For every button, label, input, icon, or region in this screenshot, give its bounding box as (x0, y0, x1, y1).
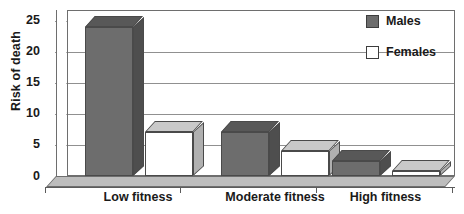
legend: Males Females (366, 14, 436, 76)
legend-label-males: Males (386, 14, 421, 28)
bar-females-moderate-fitness (281, 151, 329, 176)
bar-front-face (392, 171, 440, 176)
y-tick-label-25: 25 (14, 14, 40, 26)
bar-front-face (332, 161, 380, 176)
x-tick-start (45, 187, 46, 193)
y-axis-tick-labels: 25 20 15 10 5 0 (14, 0, 40, 214)
bar-males-moderate-fitness (221, 132, 269, 176)
filled-square-icon (366, 15, 379, 28)
y-tick-label-10: 10 (14, 107, 40, 119)
legend-label-females: Females (386, 45, 436, 59)
x-axis-label-low-fitness: Low fitness (68, 190, 208, 204)
bar-front-face (281, 151, 329, 176)
bar-males-low-fitness (85, 27, 133, 176)
x-axis-line (45, 187, 455, 188)
legend-item-females: Females (366, 45, 436, 59)
y-tick-label-0: 0 (14, 170, 40, 182)
bar-front-face (85, 27, 133, 176)
bar-females-low-fitness (145, 132, 193, 176)
bar-females-high-fitness (392, 171, 440, 176)
chart-floor (46, 176, 455, 187)
legend-item-males: Males (366, 14, 436, 28)
y-tick-label-5: 5 (14, 138, 40, 150)
y-tick-label-20: 20 (14, 45, 40, 57)
x-axis-label-high-fitness: High fitness (318, 190, 453, 204)
bar-front-face (221, 132, 269, 176)
bar-front-face (145, 132, 193, 176)
bar-chart: Risk of death 25 20 15 10 5 0 (0, 0, 464, 214)
y-tick-label-15: 15 (14, 76, 40, 88)
empty-square-icon (366, 46, 379, 59)
bar-side-face (133, 17, 144, 176)
bar-males-high-fitness (332, 161, 380, 176)
